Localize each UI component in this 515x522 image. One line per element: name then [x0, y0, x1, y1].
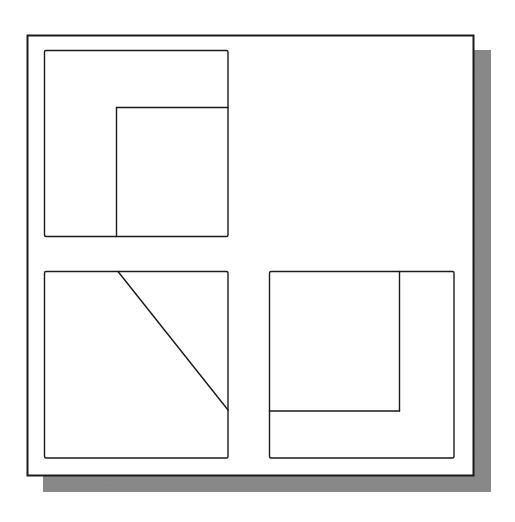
drawing-sheet: [28, 36, 492, 493]
sheet-frame: [28, 36, 474, 476]
drawing-canvas: [0, 0, 515, 522]
